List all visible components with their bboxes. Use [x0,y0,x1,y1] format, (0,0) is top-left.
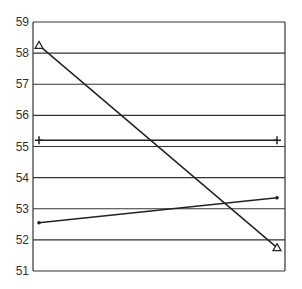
dot-series-line [39,198,277,223]
y-tick-label: 53 [16,202,30,216]
plus-marker-icon [273,136,281,144]
y-tick-label: 57 [16,77,30,91]
y-tick-label: 56 [16,108,30,122]
y-tick-label: 51 [16,264,30,278]
plus-marker-icon [35,136,43,144]
line-chart: 515253545556575859 [0,0,302,289]
y-tick-label: 54 [16,171,30,185]
y-tick-label: 52 [16,233,30,247]
dot-marker-icon [275,196,279,200]
y-tick-label: 55 [16,140,30,154]
y-tick-label: 59 [16,15,30,29]
dot-marker-icon [37,221,41,225]
y-tick-label: 58 [16,46,30,60]
triangle-marker-icon [35,41,43,48]
